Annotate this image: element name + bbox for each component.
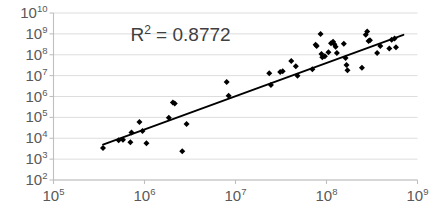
y-tick-label: 104 xyxy=(26,130,48,145)
data-point-marker xyxy=(359,65,365,71)
data-point-marker xyxy=(341,41,347,47)
data-point-marker xyxy=(179,148,185,154)
scatter-chart: 1010109108107106105104103102 10510610710… xyxy=(0,0,436,215)
r-squared-text: R2 = 0.8772 xyxy=(130,25,230,44)
y-tick-label: 109 xyxy=(26,26,48,41)
data-point-marker xyxy=(293,63,299,69)
data-point-marker xyxy=(184,121,190,127)
trend-line xyxy=(103,35,403,145)
x-tick-label: 105 xyxy=(43,188,65,203)
y-tick-label: 103 xyxy=(26,151,48,166)
x-tick-label: 109 xyxy=(407,188,429,203)
data-point-marker xyxy=(100,145,106,151)
y-tick-marks xyxy=(50,13,54,180)
y-tick-label: 108 xyxy=(26,47,48,62)
y-tick-label: 107 xyxy=(26,68,48,83)
y-tick-label: 106 xyxy=(26,89,48,104)
x-tick-marks xyxy=(54,180,418,184)
data-point-marker xyxy=(288,58,294,64)
y-tick-label: 1010 xyxy=(20,5,47,20)
data-point-marker xyxy=(224,79,230,85)
data-point-marker xyxy=(393,44,399,50)
x-tick-label: 108 xyxy=(316,188,338,203)
data-point-marker xyxy=(136,119,142,125)
y-tick-label: 105 xyxy=(26,109,48,124)
data-point-marker xyxy=(318,31,324,37)
x-tick-label: 106 xyxy=(134,188,156,203)
data-point-marker xyxy=(386,45,392,51)
data-point-marker xyxy=(143,140,149,146)
x-tick-label: 107 xyxy=(225,188,247,203)
data-point-marker xyxy=(344,67,350,73)
data-point-marker xyxy=(344,62,350,68)
y-tick-label: 102 xyxy=(26,172,48,187)
trend-line-segment xyxy=(103,35,403,145)
data-point-marker xyxy=(127,139,133,145)
